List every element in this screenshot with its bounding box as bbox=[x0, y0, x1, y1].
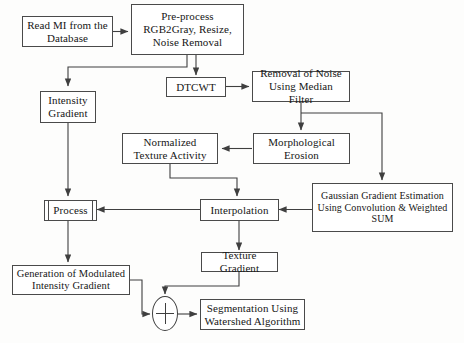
node-generation-modulated-intensity-gradient[interactable]: Generation of Modulated Intensity Gradie… bbox=[12, 265, 130, 295]
node-intensity-line2: Gradient bbox=[44, 107, 92, 120]
node-segmentation-line1: Segmentation Using bbox=[204, 302, 301, 315]
node-generation-text: Generation of Modulated Intensity Gradie… bbox=[16, 268, 126, 293]
node-gaussian-line2: Using Convolution & Weighted bbox=[316, 202, 449, 214]
node-generation-line2: Intensity Gradient bbox=[16, 280, 126, 292]
node-preprocess-text: Pre-process RGB2Gray, Resize, Noise Remo… bbox=[135, 10, 240, 49]
node-texture-gradient-label: Texture Gradient bbox=[205, 249, 274, 275]
flowchart-canvas: Read MI from the Database Pre-process RG… bbox=[0, 0, 464, 343]
node-erosion-text: Morphological Erosion bbox=[257, 136, 346, 162]
node-intensity-text: Intensity Gradient bbox=[44, 94, 92, 120]
node-erosion-line2: Erosion bbox=[257, 149, 346, 162]
wire-generation-to-sum bbox=[130, 280, 150, 314]
node-segmentation-line2: Watershed Algorithm bbox=[204, 315, 301, 328]
node-segmentation-watershed[interactable]: Segmentation Using Watershed Algorithm bbox=[200, 299, 305, 330]
node-gaussian-line1: Gaussian Gradient Estimation bbox=[316, 190, 449, 202]
plus-vertical-stroke bbox=[165, 303, 166, 324]
node-removal-line1: Removal of Noise bbox=[256, 67, 346, 80]
node-preprocess-line1: Pre-process bbox=[135, 10, 240, 23]
node-gaussian-text: Gaussian Gradient Estimation Using Convo… bbox=[316, 190, 449, 225]
node-preprocess-line3: Noise Removal bbox=[135, 36, 240, 49]
node-generation-line1: Generation of Modulated bbox=[16, 268, 126, 280]
node-removal-of-noise[interactable]: Removal of Noise Using Median Filter bbox=[252, 71, 350, 102]
node-interpolation-label: Interpolation bbox=[204, 204, 275, 217]
node-dtcwt[interactable]: DTCWT bbox=[166, 77, 226, 97]
node-normalized-line1: Normalized bbox=[126, 136, 214, 149]
wire-normalized-to-interpolation bbox=[170, 164, 237, 196]
node-process[interactable]: Process bbox=[44, 200, 97, 221]
node-read-mi-line1: Read MI from the bbox=[26, 19, 109, 32]
summation-junction[interactable] bbox=[152, 296, 178, 331]
node-morphological-erosion[interactable]: Morphological Erosion bbox=[253, 133, 350, 164]
node-intensity-gradient[interactable]: Intensity Gradient bbox=[40, 91, 96, 123]
node-intensity-line1: Intensity bbox=[44, 94, 92, 107]
node-segmentation-text: Segmentation Using Watershed Algorithm bbox=[204, 302, 301, 328]
node-normalized-text: Normalized Texture Activity bbox=[126, 136, 214, 162]
node-preprocess-line2: RGB2Gray, Resize, bbox=[135, 23, 240, 36]
node-removal-text: Removal of Noise Using Median Filter bbox=[256, 67, 346, 106]
node-preprocess[interactable]: Pre-process RGB2Gray, Resize, Noise Remo… bbox=[131, 4, 244, 55]
node-normalized-line2: Texture Activity bbox=[126, 149, 214, 162]
node-process-label: Process bbox=[48, 204, 93, 217]
node-gaussian-gradient-estimation[interactable]: Gaussian Gradient Estimation Using Convo… bbox=[312, 183, 453, 232]
node-interpolation[interactable]: Interpolation bbox=[200, 199, 279, 221]
node-removal-line2: Using Median Filter bbox=[256, 80, 346, 106]
node-dtcwt-label: DTCWT bbox=[170, 81, 222, 94]
node-texture-gradient[interactable]: Texture Gradient bbox=[201, 252, 278, 272]
node-read-mi-text: Read MI from the Database bbox=[26, 19, 109, 45]
node-erosion-line1: Morphological bbox=[257, 136, 346, 149]
node-read-mi-line2: Database bbox=[26, 32, 109, 45]
wire-texture-to-sum bbox=[165, 272, 239, 294]
node-gaussian-line3: SUM bbox=[316, 213, 449, 225]
node-normalized-texture-activity[interactable]: Normalized Texture Activity bbox=[122, 133, 218, 164]
node-read-mi-from-database[interactable]: Read MI from the Database bbox=[22, 16, 113, 47]
